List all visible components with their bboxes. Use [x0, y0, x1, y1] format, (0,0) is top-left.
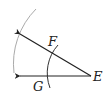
geometry-diagram: F G E — [0, 0, 106, 93]
label-e: E — [92, 69, 103, 84]
label-g: G — [33, 79, 43, 93]
label-f: F — [47, 34, 58, 49]
